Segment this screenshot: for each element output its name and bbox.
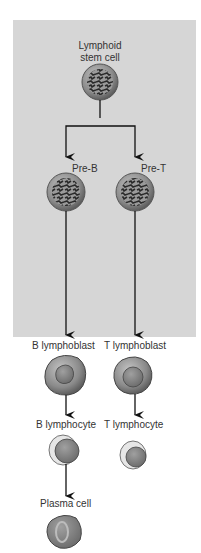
stem-cell-label: Lymphoid stem cell bbox=[70, 40, 130, 64]
diagram-graphics bbox=[0, 0, 201, 553]
t-lymphoblast-icon bbox=[114, 357, 152, 394]
b-lymphoblast-label: B lymphoblast bbox=[32, 340, 95, 352]
b-lymphocyte-icon bbox=[49, 435, 79, 465]
b-lymphocyte-label: B lymphocyte bbox=[36, 419, 96, 431]
plasma-cell-icon bbox=[47, 515, 81, 548]
pre-t-label: Pre-T bbox=[141, 163, 166, 175]
pre-b-label: Pre-B bbox=[72, 163, 98, 175]
pre-b-cell-icon bbox=[47, 173, 85, 211]
t-lymphocyte-icon bbox=[120, 441, 146, 469]
pre-t-cell-icon bbox=[116, 173, 154, 211]
t-lymphocyte-label: T lymphocyte bbox=[104, 419, 163, 431]
lymphoid-stem-cell-icon bbox=[82, 64, 118, 100]
plasma-cell-label: Plasma cell bbox=[40, 498, 91, 510]
t-lymphoblast-label: T lymphoblast bbox=[104, 340, 166, 352]
b-lymphoblast-icon bbox=[45, 355, 86, 395]
